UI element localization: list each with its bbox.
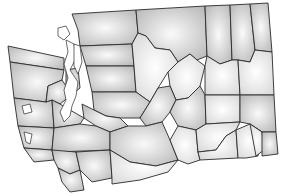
county-snohomish: Snohomish: [86, 66, 136, 92]
county-layer: WhatcomOkanoganFerryStevensPend OreilleS…: [8, 3, 278, 192]
water-grays-harbor-bay: [22, 104, 32, 114]
county-asotin: Asotin: [262, 132, 278, 156]
county-grays-harbor: Grays Harbor: [14, 98, 54, 128]
county-whatcom: Whatcom: [72, 10, 138, 46]
county-wahkiakum: Wahkiakum: [24, 148, 54, 162]
county-pacific: Pacific: [18, 126, 54, 150]
washington-county-map: WhatcomOkanoganFerryStevensPend OreilleS…: [0, 0, 289, 196]
county-cowlitz: Cowlitz: [52, 150, 80, 174]
county-adams: Adams: [205, 95, 240, 124]
water-san-juan-islands: [58, 26, 70, 40]
county-skagit: Skagit: [80, 44, 134, 66]
county-ferry: Ferry: [205, 5, 232, 64]
county-lewis: Lewis: [52, 124, 110, 152]
